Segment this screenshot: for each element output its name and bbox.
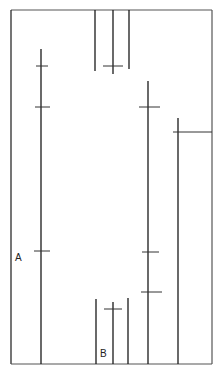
label-b: B xyxy=(100,349,107,359)
vertical-lines xyxy=(41,10,178,364)
tick-marks xyxy=(34,66,212,309)
line-diagram xyxy=(0,0,222,374)
label-a: A xyxy=(15,253,22,263)
